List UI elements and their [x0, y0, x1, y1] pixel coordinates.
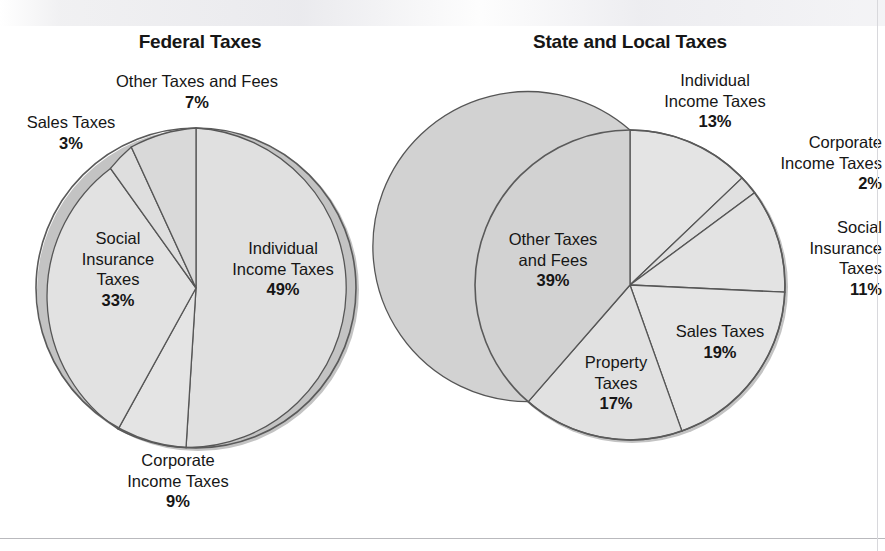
pie-label-text: Sales Taxes — [645, 321, 795, 342]
pie-label-text-line2: Insurance — [730, 238, 882, 259]
pie-label-state-social-insurance-taxes: Social Insurance Taxes 11% — [730, 217, 882, 299]
pie-label-text-line2: and Fees — [468, 250, 638, 271]
pie-label-text-line3: Taxes — [730, 258, 882, 279]
pie-label-text-line2: Taxes — [556, 373, 676, 394]
pie-label-text-line1: Property — [556, 352, 676, 373]
pie-label-text-line2: Income Taxes — [700, 153, 882, 174]
figure-canvas: Federal Taxes Other Taxes and Fees 7% Sa… — [0, 0, 885, 551]
pie-label-value: 11% — [730, 279, 882, 300]
pie-label-state-property-taxes: Property Taxes 17% — [556, 352, 676, 414]
pie-label-value: 39% — [468, 270, 638, 291]
pie-label-value: 13% — [625, 111, 805, 132]
pie-label-text-line1: Social — [730, 217, 882, 238]
pie-label-value: 2% — [700, 173, 882, 194]
pie-label-state-corporate-income-taxes: Corporate Income Taxes 2% — [700, 132, 882, 194]
pie-label-state-other-taxes-and-fees: Other Taxes and Fees 39% — [468, 229, 638, 291]
page-edge-rule — [877, 0, 878, 551]
pie-label-text-line2: Income Taxes — [625, 91, 805, 112]
pie-label-state-individual-income-taxes: Individual Income Taxes 13% — [625, 70, 805, 132]
pie-label-text-line1: Other Taxes — [468, 229, 638, 250]
pie-label-text-line1: Individual — [625, 70, 805, 91]
pie-label-value: 17% — [556, 393, 676, 414]
page-divider-rule — [0, 538, 885, 539]
pie-label-text-line1: Corporate — [700, 132, 882, 153]
